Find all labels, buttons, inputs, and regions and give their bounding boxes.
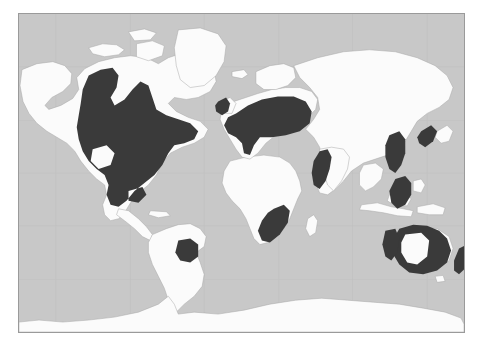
- page-root: [0, 0, 482, 348]
- world-map-figure: [18, 13, 465, 333]
- world-map-svg: [19, 14, 464, 332]
- land-tasmania: [435, 275, 445, 282]
